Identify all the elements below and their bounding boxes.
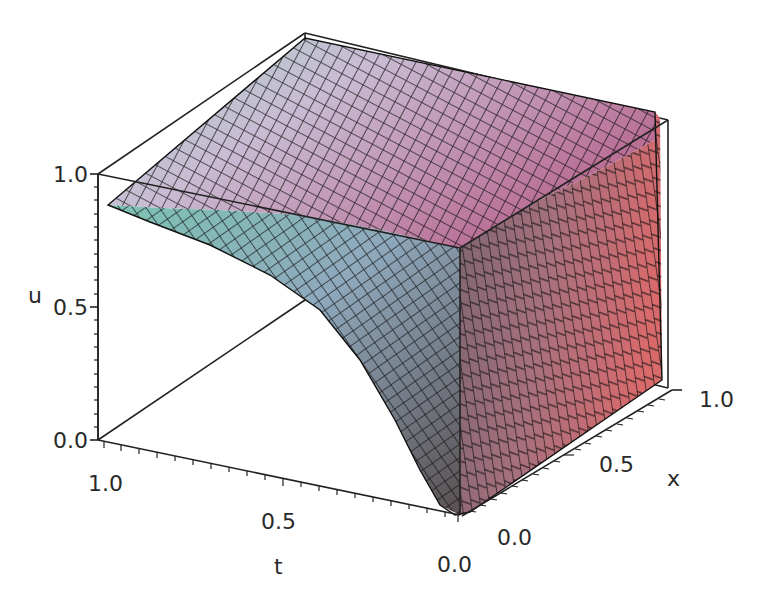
x-axis-label: x	[667, 466, 680, 491]
surface-plot: 1.0 0.5 0.0 u 1.0 0.5 0.0 t 0.0 0.5 1.0 …	[0, 0, 768, 613]
t-tick-0.0: 0.0	[437, 552, 472, 577]
u-axis-label: u	[28, 283, 42, 308]
u-tick-1.0: 1.0	[53, 162, 88, 187]
x-tick-1.0: 1.0	[699, 387, 734, 412]
t-tick-1.0: 1.0	[88, 471, 123, 496]
u-tick-0.5: 0.5	[53, 295, 88, 320]
u-tick-0.0: 0.0	[53, 428, 88, 453]
x-tick-0.5: 0.5	[599, 452, 634, 477]
t-tick-0.5: 0.5	[261, 509, 296, 534]
surface-left-mesh	[108, 205, 460, 515]
surface	[108, 38, 662, 515]
u-axis	[90, 174, 98, 440]
t-axis-label: t	[274, 554, 283, 579]
x-tick-0.0: 0.0	[497, 525, 532, 550]
